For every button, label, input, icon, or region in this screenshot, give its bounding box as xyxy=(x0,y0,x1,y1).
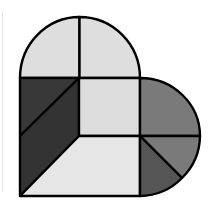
region-top-right-arc xyxy=(80,17,141,78)
heart-diagram xyxy=(0,0,213,211)
region-right-upper-arc xyxy=(140,78,200,136)
region-top-left-arc xyxy=(20,17,80,78)
region-center-square xyxy=(79,78,140,136)
